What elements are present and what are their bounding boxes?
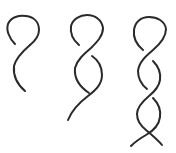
strand-loop: [71, 15, 103, 93]
strand-loop-left: [7, 16, 39, 45]
strand-second: [68, 56, 102, 120]
strand-tail: [14, 45, 30, 91]
figure-double-twist: [68, 15, 103, 120]
figure-multi-twist-braid: [131, 17, 166, 146]
figure-single-loop: [7, 16, 39, 91]
twist-diagram: [0, 0, 176, 153]
